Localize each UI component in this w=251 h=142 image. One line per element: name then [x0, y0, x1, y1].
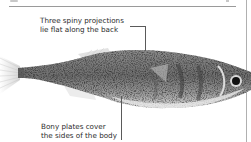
- header-fragment: [226, 0, 229, 2]
- top-divider: [9, 6, 236, 7]
- callout-bony-plates: Bony plates cover the sides of the body: [41, 122, 117, 141]
- callout-text-line: Bony plates cover: [41, 122, 117, 131]
- fish-illustration: [0, 38, 251, 118]
- callout-text-line: lie flat along the back: [40, 25, 124, 34]
- callout-text-line: the sides of the body: [41, 131, 117, 140]
- tail-fin: [0, 56, 20, 94]
- leader-line: [130, 26, 146, 27]
- callout-text-line: Three spiny projections: [40, 16, 124, 25]
- header-fragment: [10, 0, 18, 2]
- leader-line: [121, 96, 122, 140]
- callout-dorsal-spines: Three spiny projections lie flat along t…: [40, 16, 124, 35]
- leader-line: [145, 26, 146, 51]
